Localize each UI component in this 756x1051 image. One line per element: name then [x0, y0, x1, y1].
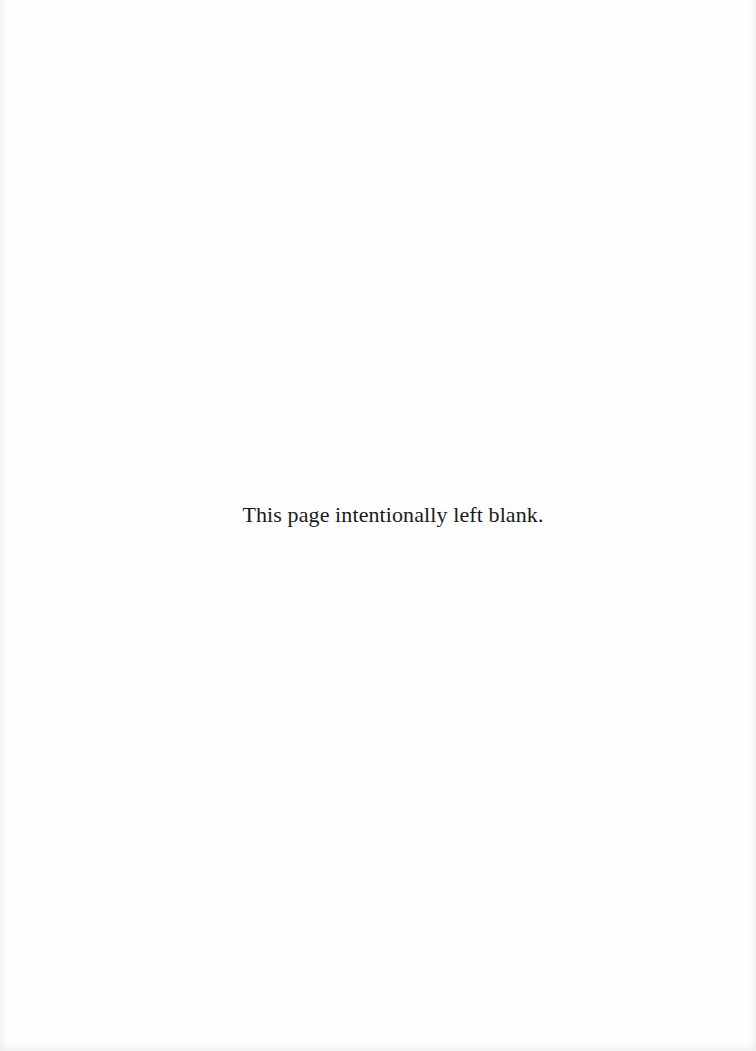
- blank-page: This page intentionally left blank.: [0, 0, 756, 1051]
- blank-page-notice: This page intentionally left blank.: [0, 502, 756, 528]
